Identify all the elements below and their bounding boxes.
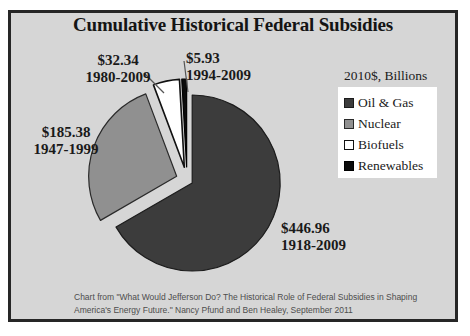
data-label-oil-gas: $446.96 1918-2009 [281, 220, 346, 254]
legend-units-label: 2010$, Billions [344, 68, 427, 84]
legend-label-oil-gas: Oil & Gas [358, 95, 414, 111]
renewables-amount: $5.93 [186, 50, 251, 67]
biofuels-amount: $32.34 [70, 52, 166, 69]
nuclear-swatch [344, 119, 354, 129]
screenshot-root: { "window": { "background": "#ffffff", "… [0, 0, 470, 336]
legend-item-oil-gas: Oil & Gas [344, 92, 437, 113]
legend-label-nuclear: Nuclear [358, 116, 401, 132]
data-label-nuclear: $185.38 1947-1999 [20, 124, 112, 158]
nuclear-amount: $185.38 [20, 124, 112, 141]
pie-slices [89, 79, 281, 271]
nuclear-period: 1947-1999 [20, 141, 112, 158]
biofuels-swatch [344, 140, 354, 150]
source-note-line1: Chart from "What Would Jefferson Do? The… [74, 291, 417, 304]
source-note: Chart from "What Would Jefferson Do? The… [74, 291, 417, 316]
source-note-line2: America's Energy Future." Nancy Pfund an… [74, 304, 417, 317]
renewables-swatch [344, 161, 354, 171]
legend: Oil & Gas Nuclear Biofuels Renewables [338, 87, 437, 178]
data-label-renewables: $5.93 1994-2009 [186, 50, 251, 84]
legend-item-nuclear: Nuclear [344, 113, 437, 134]
biofuels-period: 1980-2009 [70, 69, 166, 86]
oil-gas-swatch [344, 98, 354, 108]
legend-label-biofuels: Biofuels [358, 137, 404, 153]
legend-item-renewables: Renewables [344, 155, 437, 176]
renewables-period: 1994-2009 [186, 67, 251, 84]
legend-item-biofuels: Biofuels [344, 134, 437, 155]
oil-gas-period: 1918-2009 [281, 237, 346, 254]
oil-gas-amount: $446.96 [281, 220, 346, 237]
legend-label-renewables: Renewables [358, 158, 423, 174]
data-label-biofuels: $32.34 1980-2009 [70, 52, 166, 86]
